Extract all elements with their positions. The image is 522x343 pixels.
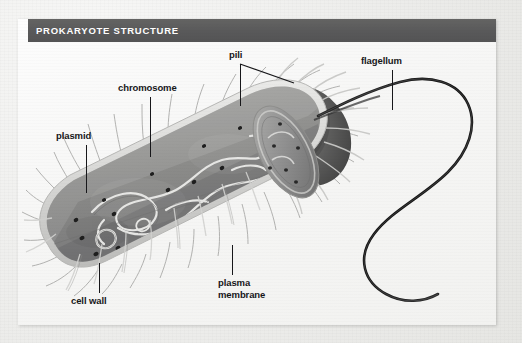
label-plasma-membrane: plasma membrane <box>218 277 280 300</box>
label-plasmid: plasmid <box>56 130 91 142</box>
leader-line-pili-right <box>232 61 302 91</box>
leader-line-chromosome <box>150 97 151 157</box>
page-background: PROKARYOTE STRUCTURE <box>0 0 522 343</box>
label-cell-wall: cell wall <box>71 295 107 307</box>
leader-line-cell-wall <box>99 263 100 293</box>
figure-title-bar: PROKARYOTE STRUCTURE <box>28 19 496 42</box>
label-flagellum: flagellum <box>361 55 402 67</box>
figure-panel: PROKARYOTE STRUCTURE <box>18 19 496 325</box>
label-pili: pili <box>229 49 242 61</box>
leader-line-flagellum <box>392 70 393 110</box>
leader-line-plasmid <box>86 145 87 193</box>
label-chromosome: chromosome <box>118 82 177 94</box>
leader-line-plasma-membrane <box>232 245 233 275</box>
figure-title: PROKARYOTE STRUCTURE <box>36 25 179 36</box>
